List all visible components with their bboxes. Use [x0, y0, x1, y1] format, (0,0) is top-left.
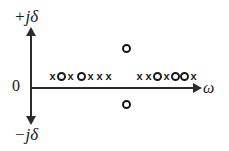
pole-marker: x — [189, 71, 198, 82]
pole-marker: x — [48, 71, 57, 82]
arrow-up-icon — [26, 27, 36, 36]
arrow-right-icon — [193, 83, 202, 93]
pole-marker: x — [95, 71, 104, 82]
zero-marker — [180, 72, 189, 81]
axis-label-positive-jdelta: +jδ — [14, 8, 38, 25]
zero-marker — [171, 72, 180, 81]
pole-marker: x — [86, 71, 95, 82]
pole-marker: x — [104, 71, 113, 82]
pole-marker: x — [66, 71, 75, 82]
arrow-down-icon — [26, 116, 36, 125]
off-axis-zero-lower — [122, 100, 131, 109]
on-axis-marker-row: xx xxx xxxx — [0, 69, 229, 83]
pole-marker: x — [144, 71, 153, 82]
zero-marker — [77, 72, 86, 81]
axis-label-negative-jdelta: −jδ — [14, 126, 38, 143]
marker-cluster-middle: xxx — [77, 69, 113, 83]
omega-axis-line — [31, 87, 195, 89]
zero-marker — [57, 72, 66, 81]
off-axis-zero-upper — [122, 44, 131, 53]
marker-cluster-right: xxxx — [135, 69, 198, 83]
pole-marker: x — [162, 71, 171, 82]
zero-marker — [153, 72, 162, 81]
pole-zero-diagram: +jδ −jδ ω 0 xx xxx xxxx — [0, 0, 229, 151]
pole-marker: x — [135, 71, 144, 82]
marker-cluster-left: xx — [48, 69, 75, 83]
